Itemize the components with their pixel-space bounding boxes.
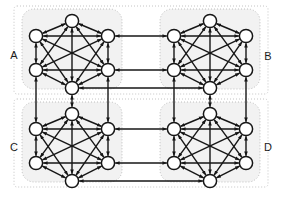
node-d0[interactable] (203, 107, 216, 120)
node-d4[interactable] (239, 156, 252, 169)
node-d3[interactable] (167, 156, 180, 169)
node-a4[interactable] (101, 63, 114, 76)
node-b4[interactable] (239, 63, 252, 76)
cluster-label-a: A (10, 49, 18, 61)
cluster-label-d: D (264, 141, 272, 153)
node-d5[interactable] (203, 174, 216, 187)
cluster-label-c: C (10, 141, 18, 153)
node-a0[interactable] (65, 14, 78, 27)
node-b5[interactable] (203, 81, 216, 94)
node-b1[interactable] (167, 29, 180, 42)
node-a5[interactable] (65, 81, 78, 94)
node-b3[interactable] (167, 63, 180, 76)
node-c2[interactable] (101, 122, 114, 135)
graph-canvas: ABCD (0, 0, 282, 199)
node-c3[interactable] (29, 156, 42, 169)
node-c1[interactable] (29, 122, 42, 135)
node-a1[interactable] (29, 29, 42, 42)
network-diagram: ABCD (0, 0, 282, 199)
node-b0[interactable] (203, 14, 216, 27)
node-a3[interactable] (29, 63, 42, 76)
cluster-boundary-group (22, 9, 260, 182)
node-a2[interactable] (101, 29, 114, 42)
node-c4[interactable] (101, 156, 114, 169)
node-d1[interactable] (167, 122, 180, 135)
node-b2[interactable] (239, 29, 252, 42)
node-c0[interactable] (65, 107, 78, 120)
node-d2[interactable] (239, 122, 252, 135)
node-c5[interactable] (65, 174, 78, 187)
cluster-label-b: B (264, 50, 271, 62)
